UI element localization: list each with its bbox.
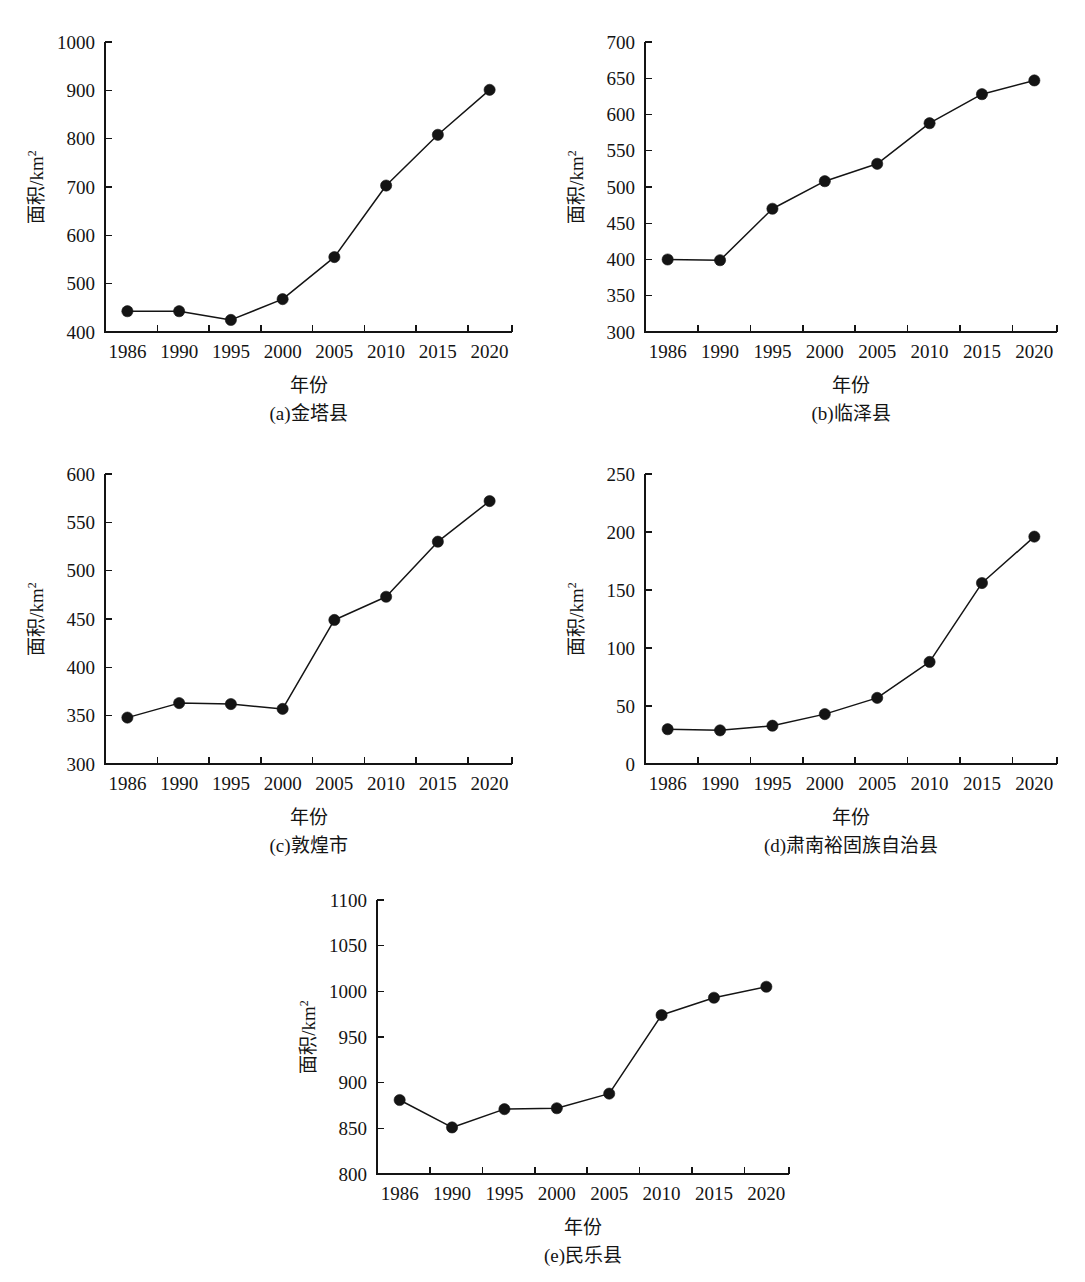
y-tick-label: 1000 xyxy=(57,32,95,53)
y-tick-label: 950 xyxy=(339,1027,368,1048)
y-tick-label: 600 xyxy=(67,225,96,246)
series-line xyxy=(668,80,1035,260)
x-tick-label: 2020 xyxy=(471,341,509,362)
x-tick-label: 1986 xyxy=(649,341,687,362)
data-point xyxy=(662,254,673,265)
x-tick-label: 2000 xyxy=(264,773,302,794)
data-point xyxy=(499,1104,510,1115)
data-point xyxy=(819,709,830,720)
x-tick-label: 2010 xyxy=(367,341,405,362)
panel-caption: (d)肃南裕固族自治县 xyxy=(764,835,938,857)
x-axis-ticks: 19861990199520002005201020152020 xyxy=(649,757,1057,794)
data-point xyxy=(604,1088,615,1099)
chart-panel-c: 3003504004505005506001986199019952000200… xyxy=(0,440,540,872)
data-point xyxy=(976,577,987,588)
series-line xyxy=(400,987,767,1128)
data-point xyxy=(872,158,883,169)
data-point xyxy=(761,981,772,992)
y-tick-label: 600 xyxy=(67,464,96,485)
y-tick-label: 300 xyxy=(607,322,636,343)
panel-caption: (c)敦煌市 xyxy=(269,835,347,857)
y-tick-label: 350 xyxy=(607,285,636,306)
x-tick-label: 1986 xyxy=(381,1183,419,1204)
x-axis-ticks: 19861990199520002005201020152020 xyxy=(108,325,512,362)
data-point xyxy=(381,591,392,602)
data-point xyxy=(329,251,340,262)
axes xyxy=(645,42,1057,332)
data-point xyxy=(174,698,185,709)
x-tick-label: 2005 xyxy=(590,1183,628,1204)
y-tick-label: 250 xyxy=(607,464,636,485)
x-tick-label: 1986 xyxy=(649,773,687,794)
x-tick-label: 2005 xyxy=(315,773,353,794)
x-axis-title: 年份 xyxy=(290,807,328,828)
y-tick-label: 500 xyxy=(67,560,96,581)
y-tick-label: 900 xyxy=(67,80,96,101)
x-tick-label: 1986 xyxy=(108,773,146,794)
x-tick-label: 1990 xyxy=(701,773,739,794)
x-tick-label: 2000 xyxy=(538,1183,576,1204)
x-tick-label: 1995 xyxy=(753,341,791,362)
data-point xyxy=(656,1009,667,1020)
x-tick-label: 2015 xyxy=(419,341,457,362)
data-point xyxy=(662,724,673,735)
x-tick-label: 2000 xyxy=(806,773,844,794)
y-tick-label: 400 xyxy=(67,657,96,678)
x-tick-label: 1995 xyxy=(485,1183,523,1204)
y-axis-ticks: 800850900950100010501100 xyxy=(329,890,384,1185)
x-tick-label: 2015 xyxy=(963,341,1001,362)
x-axis-ticks: 19861990199520002005201020152020 xyxy=(381,1167,789,1204)
y-tick-label: 700 xyxy=(67,177,96,198)
y-tick-label: 50 xyxy=(616,696,635,717)
data-point xyxy=(714,725,725,736)
axes xyxy=(105,42,512,332)
x-axis-title: 年份 xyxy=(832,807,870,828)
y-tick-label: 400 xyxy=(607,249,636,270)
y-tick-label: 350 xyxy=(67,705,96,726)
data-point xyxy=(924,656,935,667)
axes xyxy=(645,474,1057,764)
y-tick-label: 1000 xyxy=(329,981,367,1002)
data-point xyxy=(484,84,495,95)
data-point xyxy=(174,306,185,317)
series-line xyxy=(668,537,1035,731)
x-axis-title: 年份 xyxy=(290,375,328,396)
x-tick-label: 2020 xyxy=(747,1183,785,1204)
y-tick-label: 500 xyxy=(607,177,636,198)
data-point xyxy=(225,314,236,325)
series-markers xyxy=(394,981,772,1133)
data-point xyxy=(976,89,987,100)
x-tick-label: 2010 xyxy=(367,773,405,794)
chart-panel-a: 4005006007008009001000198619901995200020… xyxy=(0,8,540,440)
y-tick-label: 800 xyxy=(67,128,96,149)
series-markers xyxy=(122,495,495,723)
x-tick-label: 2015 xyxy=(695,1183,733,1204)
data-point xyxy=(924,118,935,129)
y-axis-title: 面积/km2 xyxy=(565,150,587,224)
x-tick-label: 1995 xyxy=(212,341,250,362)
data-point xyxy=(277,294,288,305)
y-tick-label: 300 xyxy=(67,754,96,775)
chart-panel-d: 0501001502002501986199019952000200520102… xyxy=(540,440,1085,872)
x-tick-label: 2010 xyxy=(911,341,949,362)
data-point xyxy=(122,306,133,317)
x-tick-label: 2000 xyxy=(264,341,302,362)
chart-panel-b: 3003504004505005506006507001986199019952… xyxy=(540,8,1085,440)
x-axis-ticks: 19861990199520002005201020152020 xyxy=(108,757,512,794)
data-point xyxy=(277,703,288,714)
y-axis-title: 面积/km2 xyxy=(565,582,587,656)
data-point xyxy=(381,180,392,191)
y-tick-label: 100 xyxy=(607,638,636,659)
x-tick-label: 2020 xyxy=(471,773,509,794)
y-tick-label: 850 xyxy=(339,1118,368,1139)
y-axis-title: 面积/km2 xyxy=(297,1000,319,1074)
x-tick-label: 1986 xyxy=(108,341,146,362)
panel-caption: (b)临泽县 xyxy=(811,403,890,425)
x-tick-label: 1990 xyxy=(701,341,739,362)
x-tick-label: 1990 xyxy=(160,773,198,794)
y-tick-label: 1100 xyxy=(330,890,367,911)
data-point xyxy=(432,536,443,547)
data-point xyxy=(714,255,725,266)
y-tick-label: 150 xyxy=(607,580,636,601)
panel-caption: (a)金塔县 xyxy=(269,403,347,425)
